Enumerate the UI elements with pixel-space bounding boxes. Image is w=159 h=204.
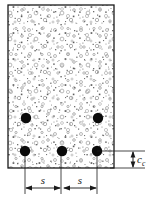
cover-label: cc (137, 153, 146, 168)
concrete-section (8, 5, 114, 168)
beam-cross-section-figure: cc s s (0, 0, 159, 204)
rebar-upper-left (21, 113, 31, 123)
spacing-dimension-left: s (25, 174, 61, 190)
cross-section-drawing: cc s s (0, 0, 159, 204)
spacing-right-label: s (78, 174, 82, 186)
cover-dimension-arrow (131, 151, 136, 168)
spacing-left-arrowhead-start (25, 186, 32, 191)
cover-label-subscript: c (142, 159, 146, 168)
spacing-right-arrowhead-start (63, 186, 70, 191)
spacing-left-arrowhead-end (54, 186, 61, 191)
cover-arrowhead-down (131, 162, 136, 169)
cover-arrowhead-up (131, 151, 136, 158)
spacing-left-label: s (41, 174, 45, 186)
spacing-right-arrowhead-end (90, 186, 97, 191)
concrete-fill-overlay (8, 5, 114, 168)
rebar-lower-middle (57, 146, 67, 156)
rebar-lower-left (20, 146, 30, 156)
spacing-dimension-right: s (63, 174, 97, 190)
rebar-upper-right (93, 113, 103, 123)
